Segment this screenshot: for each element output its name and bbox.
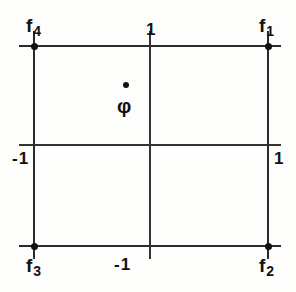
corner-label-f1-subscript: 1 [266, 23, 274, 39]
interior-point-label: φ [117, 96, 131, 116]
corner-label-f3-base: f [26, 255, 32, 276]
node-marker-f4 [31, 43, 38, 50]
corner-label-f4-subscript: 4 [33, 23, 41, 39]
corner-label-f2: f2 [259, 256, 274, 278]
node-marker-f3 [31, 243, 38, 250]
tick-label-bottom-center: -1 [114, 256, 131, 273]
grid-line-left [33, 31, 35, 259]
figure-canvas: f4 f1 f3 f2 1 1 -1 -1 φ [0, 0, 296, 292]
interior-point-dot [123, 82, 129, 88]
node-marker-f2 [265, 243, 272, 250]
tick-label-left-middle: -1 [12, 150, 29, 167]
corner-label-f1: f1 [259, 16, 274, 38]
grid-line-center [149, 31, 151, 259]
corner-label-f2-base: f [259, 255, 265, 276]
tick-label-right-middle: 1 [274, 150, 284, 167]
corner-label-f1-base: f [259, 15, 265, 36]
corner-label-f4-base: f [26, 15, 32, 36]
corner-label-f2-subscript: 2 [266, 263, 274, 279]
tick-label-top-center: 1 [146, 21, 156, 38]
grid-line-right [267, 31, 269, 259]
node-marker-f1 [265, 43, 272, 50]
corner-label-f3: f3 [26, 256, 41, 278]
corner-label-f3-subscript: 3 [33, 263, 41, 279]
corner-label-f4: f4 [26, 16, 41, 38]
